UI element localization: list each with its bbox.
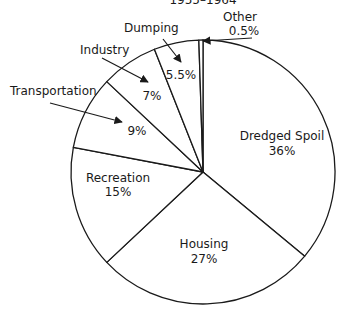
label-housing: Housing [180, 237, 229, 251]
pie-chart: 1955–1964 Dredged Spoil 36% Housing 27% … [0, 0, 338, 315]
pct-dredged-spoil: 36% [269, 144, 296, 158]
label-industry: Industry [80, 43, 129, 57]
label-transportation: Transportation [9, 84, 97, 98]
label-dumping: Dumping [124, 21, 179, 35]
label-other: Other [223, 10, 257, 24]
pct-industry: 7% [142, 89, 161, 103]
pct-other: 0.5% [229, 24, 260, 38]
arrow-other [203, 38, 252, 41]
chart-title: 1955–1964 [169, 0, 236, 7]
pct-recreation: 15% [105, 185, 132, 199]
pct-dumping: 5.5% [166, 68, 197, 82]
label-dredged-spoil: Dredged Spoil [240, 129, 325, 143]
pct-transportation: 9% [127, 124, 146, 138]
pct-housing: 27% [191, 252, 218, 266]
label-recreation: Recreation [86, 171, 150, 185]
